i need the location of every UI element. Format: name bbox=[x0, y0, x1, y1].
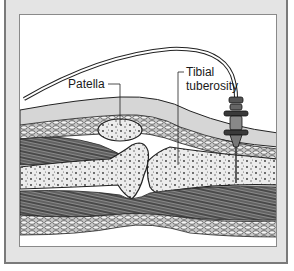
knee-illustration bbox=[20, 15, 277, 247]
illustration-panel: Patella Tibial tuberosity bbox=[19, 14, 277, 247]
label-patella: Patella bbox=[68, 77, 105, 91]
label-tibial-tuberosity-line1: Tibial bbox=[186, 65, 214, 79]
label-tibial-tuberosity-line2: tuberosity bbox=[186, 79, 238, 93]
